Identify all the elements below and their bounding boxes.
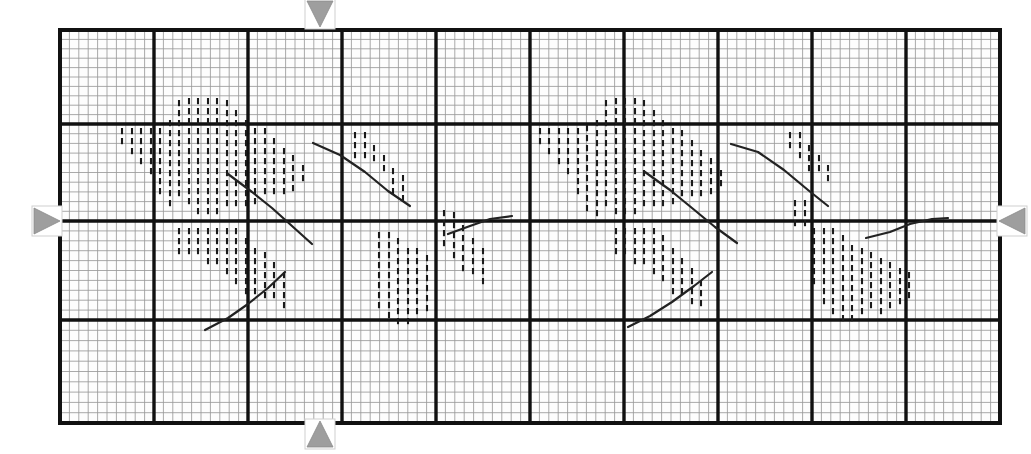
chart-canvas (0, 0, 1031, 454)
strip-chart-recording (0, 0, 1031, 454)
